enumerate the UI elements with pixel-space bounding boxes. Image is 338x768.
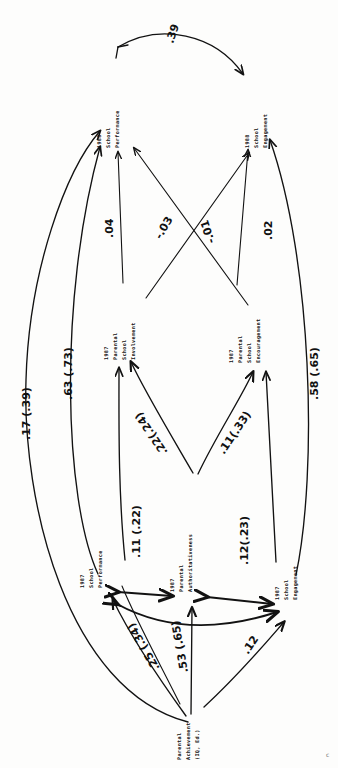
edge-53-65 bbox=[191, 608, 192, 714]
path-diagram: 1988 School Performance 1988 School Enga… bbox=[0, 0, 338, 768]
page-corner-mark: c bbox=[326, 751, 329, 758]
node-line: School bbox=[105, 127, 111, 148]
coef-22-24: .22(.24) bbox=[132, 410, 170, 458]
edge-secondary-encouragement bbox=[266, 372, 276, 562]
coef-17-39: .17 (.39) bbox=[20, 387, 33, 440]
node-line: Encouragement bbox=[255, 319, 262, 363]
node-line: School bbox=[253, 127, 259, 148]
node-line: Parental bbox=[176, 733, 182, 760]
coef-minus-03: -.03 bbox=[152, 214, 175, 241]
node-line: Achievement bbox=[185, 722, 191, 760]
node-1988-school-engagement: 1988 School Engagement bbox=[244, 114, 269, 148]
edge-02 bbox=[237, 150, 248, 285]
coef-25-34: .25 (.34) bbox=[125, 621, 163, 673]
edge-12 bbox=[204, 622, 284, 707]
node-1988-school-performance: 1988 School Performance bbox=[96, 110, 120, 148]
edge-58-65 bbox=[270, 140, 309, 575]
node-line: Engagement bbox=[292, 566, 299, 600]
coef-58-65: .58 (.65) bbox=[308, 347, 321, 400]
node-parental-achievement: Parental Achievement (IQ, Ed.) bbox=[176, 722, 200, 760]
node-line: Parental bbox=[237, 336, 243, 363]
node-line: Performance bbox=[97, 550, 103, 588]
node-line: 1987 bbox=[79, 574, 85, 588]
coef-11-33: .11(.33) bbox=[216, 409, 254, 457]
node-line: (IQ, Ed.) bbox=[194, 729, 200, 760]
node-1987-parental-school-encouragement: 1987 Parental School Encouragement bbox=[228, 319, 262, 363]
coef-12-23: .12(.23) bbox=[238, 516, 251, 565]
node-line: Involvement bbox=[130, 322, 136, 360]
node-line: 1987 bbox=[274, 586, 280, 600]
node-1987-parental-school-involvement: 1987 Parental School Involvement bbox=[103, 322, 136, 360]
edge-minus-01 bbox=[134, 148, 248, 305]
node-line: Performance bbox=[114, 110, 120, 148]
coef-39: .39 bbox=[163, 22, 181, 45]
node-line: 1987 bbox=[228, 349, 234, 363]
node-1987-school-engagement: 1987 School Engagement bbox=[274, 566, 299, 600]
node-line: School bbox=[121, 339, 127, 360]
node-line: 1987 bbox=[169, 578, 175, 592]
node-line: 1988 bbox=[244, 134, 250, 148]
figure-page: 1988 School Performance 1988 School Enga… bbox=[0, 0, 338, 768]
coef-63-73: .63 (.73) bbox=[62, 347, 75, 400]
node-line: Engagement bbox=[262, 114, 269, 148]
node-line: Authoritativeness bbox=[187, 534, 193, 592]
edge-achievement-extra bbox=[122, 586, 180, 704]
edge-secondary-involvement bbox=[119, 368, 125, 560]
edge-04 bbox=[118, 152, 123, 283]
coef-04: .04 bbox=[103, 218, 116, 238]
node-line: 1987 bbox=[103, 346, 109, 360]
node-line: School bbox=[283, 579, 289, 600]
edge-correlation-39 bbox=[116, 34, 243, 74]
coef-02: .02 bbox=[262, 221, 275, 241]
node-line: 1988 bbox=[96, 134, 102, 148]
coef-11-22: .11 (.22) bbox=[130, 505, 143, 558]
node-line: School bbox=[88, 567, 94, 588]
node-line: School bbox=[246, 342, 252, 363]
coef-53-65: .53 (.65) bbox=[169, 619, 191, 673]
edge-perf-eng-curve bbox=[117, 604, 277, 625]
node-1987-parental-authoritativeness: 1987 Parental Authoritativeness bbox=[169, 534, 193, 592]
node-line: Parental bbox=[178, 565, 184, 592]
coef-12: .12 bbox=[240, 633, 262, 656]
edge-12-23 bbox=[207, 597, 272, 604]
node-line: Parental bbox=[112, 333, 118, 360]
